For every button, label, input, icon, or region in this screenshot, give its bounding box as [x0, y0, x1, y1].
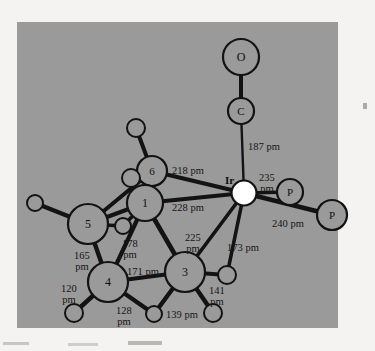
atom-Ir: [232, 181, 257, 206]
bond-length-label-l187: 187 pm: [248, 142, 280, 153]
atom-H3: [27, 195, 43, 211]
bond-length-label-l173: 173 pm: [227, 243, 259, 254]
figure-root: OCPP61543 187 pm218 pm228 pm235 pm240 pm…: [0, 0, 375, 351]
bond-length-label-l225: 225 pm: [185, 232, 201, 254]
bond-length-label-l171: 171 pm: [127, 267, 159, 278]
scan-speck-right: [363, 103, 367, 109]
atom-H1: [127, 119, 145, 137]
atom-H6: [146, 306, 162, 322]
bond-length-label-l218: 218 pm: [172, 166, 204, 177]
atom-label-A6: 6: [149, 165, 155, 177]
bond-length-label-l228: 228 pm: [172, 203, 204, 214]
scan-speck-bottom-left: [3, 342, 29, 345]
atom-H5: [65, 304, 83, 322]
atom-label-P2: P: [329, 209, 335, 221]
atom-label-A1: 1: [142, 196, 148, 210]
bond-length-label-l120: 120 pm: [61, 283, 77, 305]
metal-symbol-label: Ir: [225, 174, 234, 186]
bond-length-label-l128: 128 pm: [116, 305, 132, 327]
scan-speck-bottom-mid: [68, 343, 98, 346]
atom-label-O: O: [237, 50, 246, 64]
atom-label-C: C: [237, 105, 244, 117]
bond-length-label-l165: 165 pm: [74, 250, 90, 272]
bond-length-label-l240: 240 pm: [272, 219, 304, 230]
atom-label-A5: 5: [85, 217, 91, 231]
atom-H2: [122, 169, 140, 187]
atom-label-P1: P: [287, 186, 293, 198]
atom-label-A3: 3: [182, 265, 188, 279]
atom-H8: [218, 266, 236, 284]
bond-length-label-l178: 178 pm: [122, 238, 138, 260]
bond-length-label-l141: 141 pm: [209, 285, 225, 307]
atom-label-A4: 4: [105, 275, 111, 289]
bond-length-label-l139: 139 pm: [166, 310, 198, 321]
bond-length-label-l235: 235 pm: [259, 172, 275, 194]
atom-H4: [115, 218, 131, 234]
scan-speck-bottom-right: [128, 341, 162, 345]
